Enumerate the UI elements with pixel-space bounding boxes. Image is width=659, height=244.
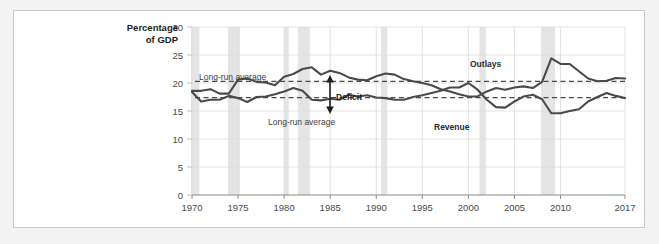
deficit-label: Deficit [336, 92, 362, 102]
data-series [192, 58, 625, 113]
x-tick-label-2005: 2005 [504, 202, 525, 213]
y-tick-label-20: 20 [172, 78, 183, 89]
y-tick-label-5: 5 [178, 162, 183, 173]
x-tick-label-1985: 1985 [320, 202, 341, 213]
x-tick-label-2010: 2010 [550, 202, 571, 213]
tick-labels: 0510152025301970197519801985199019952000… [172, 22, 635, 214]
axis-title-line2: of GDP [146, 34, 179, 45]
page-background: 0510152025301970197519801985199019952000… [0, 0, 659, 244]
y-tick-label-25: 25 [172, 50, 183, 61]
revenue-series-label: Revenue [434, 122, 470, 132]
x-tick-label-1975: 1975 [227, 202, 248, 213]
x-tick-label-2000: 2000 [458, 202, 479, 213]
y-tick-label-10: 10 [172, 134, 183, 145]
outlays-average-label: Long-run average [199, 72, 266, 82]
deficit-arrow-icon [326, 75, 334, 114]
revenue-average-label: Long-run average [268, 117, 335, 127]
x-tick-label-1995: 1995 [412, 202, 433, 213]
y-tick-label-15: 15 [172, 106, 183, 117]
x-tick-label-2017: 2017 [614, 202, 635, 213]
x-tick-label-1990: 1990 [366, 202, 387, 213]
x-tick-label-1980: 1980 [274, 202, 295, 213]
x-tick-label-1970: 1970 [181, 202, 202, 213]
y-tick-label-0: 0 [178, 190, 183, 201]
chart-figure: 0510152025301970197519801985199019952000… [0, 0, 659, 244]
outlays-series-label: Outlays [470, 59, 501, 69]
axis-title-line1: Percentage [127, 22, 178, 33]
gridlines [192, 27, 625, 195]
